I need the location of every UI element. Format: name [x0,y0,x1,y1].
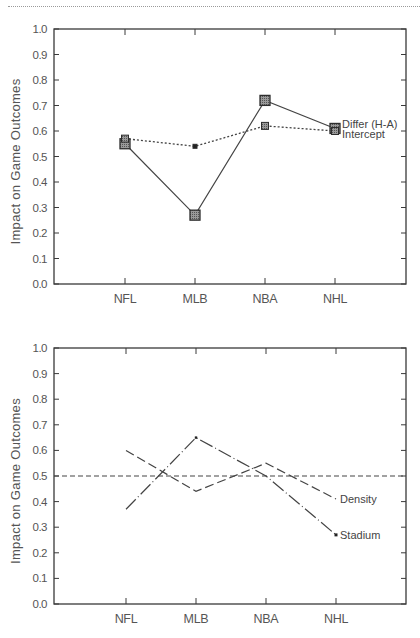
series-density [126,450,336,499]
y-tick-label: 0.1 [33,572,48,584]
y-tick-label: 0.8 [33,393,48,405]
y-tick-label: 0.6 [33,125,48,137]
y-tick-label: 0.2 [33,227,48,239]
y-axis-title: Impact on Game Outcomes [8,398,23,564]
data-point-marker [335,533,338,536]
x-tick-label-nfl: NFL [114,292,137,306]
series-intercept [122,122,339,148]
plot-frame [54,29,406,284]
x-tick-label-nfl: NFL [115,612,138,626]
y-tick-label: 0.6 [33,444,48,456]
data-point-marker [260,95,270,105]
x-tick-label-nba: NBA [254,612,280,626]
y-tick-label: 0.9 [33,49,48,61]
y-tick-label: 0.4 [33,176,49,188]
series-differ-h-a [120,95,340,220]
data-point-marker [193,144,197,148]
y-tick-label: 1.0 [33,23,48,35]
y-tick-label: 0.7 [33,419,48,431]
data-point-marker [262,122,269,129]
y-tick-label: 0.3 [33,202,48,214]
y-tick-label: 0.8 [33,74,48,86]
chart-bottom: 0.00.10.20.30.40.50.60.70.80.91.0NFLMLBN… [0,320,420,638]
x-tick-label-nba: NBA [253,292,279,306]
y-tick-label: 0.1 [33,253,48,265]
data-point-marker [122,135,129,142]
y-axis: 0.00.10.20.30.40.50.60.70.80.91.0 [33,23,407,290]
x-tick-label-mlb: MLB [184,612,209,626]
data-point-marker [332,128,339,135]
data-point-marker [190,210,200,220]
legend-label-density: Density [340,493,377,505]
chart-top: 0.00.10.20.30.40.50.60.70.80.91.0NFLMLBN… [0,0,420,320]
y-tick-label: 0.9 [33,368,48,380]
y-tick-label: 0.5 [33,151,48,163]
legend-label-intercept: Intercept [342,128,385,140]
y-axis-title: Impact on Game Outcomes [8,78,23,244]
y-tick-label: 1.0 [33,342,48,354]
y-tick-label: 0.2 [33,547,48,559]
y-tick-label: 0.5 [33,470,48,482]
x-tick-label-nhl: NHL [324,612,348,626]
x-tick-label-mlb: MLB [183,292,208,306]
data-point-marker [195,436,197,438]
y-tick-label: 0.4 [33,496,49,508]
x-tick-label-nhl: NHL [323,292,347,306]
series-stadium [126,436,338,536]
y-tick-label: 0.0 [33,598,48,610]
y-tick-label: 0.3 [33,521,48,533]
y-tick-label: 0.0 [33,278,48,290]
y-tick-label: 0.7 [33,100,48,112]
legend-label-stadium: Stadium [340,529,380,541]
